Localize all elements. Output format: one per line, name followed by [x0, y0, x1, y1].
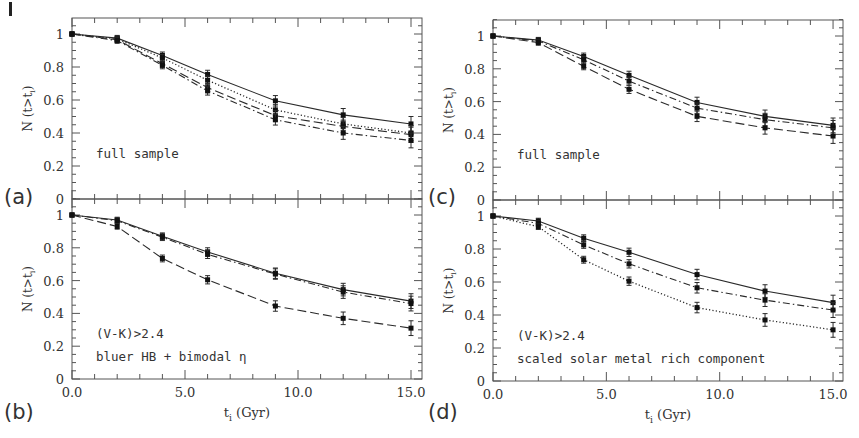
data-point [695, 305, 700, 310]
series-dash-dot [72, 215, 411, 304]
data-point [627, 250, 632, 255]
series-dashed [72, 215, 411, 328]
x-tick-label: 5.0 [596, 387, 617, 402]
series-dashed [493, 36, 833, 136]
y-tick-label: 1 [56, 208, 64, 223]
x-tick-label: 0.0 [483, 387, 504, 402]
y-tick-label: 1 [477, 209, 485, 224]
y-tick-label: 0.8 [464, 242, 485, 257]
data-point [536, 40, 541, 45]
y-tick-label: 0.8 [43, 60, 64, 75]
x-axis-label: ti (Gyr) [224, 405, 270, 423]
data-point [70, 213, 75, 218]
x-tick-label: 0.0 [62, 385, 83, 400]
series-solid [72, 215, 411, 301]
axes-frame [493, 20, 843, 200]
x-tick-label: 10.0 [705, 387, 734, 402]
panel-label-a: (a) [4, 185, 33, 209]
y-tick-label: 0.4 [43, 306, 64, 321]
series-solid [493, 216, 833, 303]
y-tick-label: 0.8 [464, 62, 485, 77]
panel-a: 00.20.40.60.81N (t>ti)full sample [21, 18, 422, 207]
series-dash-dot [493, 36, 833, 128]
data-point [695, 114, 700, 119]
data-point [763, 317, 768, 322]
y-tick-label: 1 [56, 27, 64, 42]
y-tick-label: 0.6 [43, 93, 64, 108]
panel-c: 00.20.40.60.81N (t>ti)full sample [442, 20, 843, 208]
data-point [273, 117, 278, 122]
y-tick-label: 0.2 [43, 339, 64, 354]
x-axis-label: ti (Gyr) [645, 407, 691, 425]
data-point [115, 224, 120, 229]
data-point [695, 272, 700, 277]
data-point [409, 138, 414, 143]
data-point [273, 304, 278, 309]
y-axis-label: N (t>ti) [442, 268, 458, 314]
data-point [491, 214, 496, 219]
data-point [341, 316, 346, 321]
data-point [160, 256, 165, 261]
data-point [115, 38, 120, 43]
data-point [763, 298, 768, 303]
data-point [627, 79, 632, 84]
panel-annotation: bluer HB + bimodal η [96, 349, 247, 364]
data-point [627, 87, 632, 92]
panel-d: 00.20.40.60.810.05.010.015.0ti (Gyr)N (t… [442, 200, 848, 425]
data-point [409, 326, 414, 331]
y-tick-label: 0.6 [43, 274, 64, 289]
panel-annotation: full sample [517, 147, 600, 162]
y-tick-label: 1 [477, 29, 485, 44]
data-point [581, 236, 586, 241]
data-point [205, 252, 210, 257]
data-point [341, 131, 346, 136]
panel-annotation: (V-K)>2.4 [96, 326, 164, 341]
data-point [160, 63, 165, 68]
data-point [409, 301, 414, 306]
panel-annotation: scaled solar metal rich component [517, 351, 765, 366]
x-tick-label: 5.0 [175, 385, 196, 400]
data-point [627, 279, 632, 284]
figure-canvas: 00.20.40.60.81N (t>ti)full sample00.20.4… [0, 0, 859, 438]
data-point [831, 327, 836, 332]
y-tick-label: 0.2 [464, 341, 485, 356]
data-point [831, 134, 836, 139]
data-point [695, 285, 700, 290]
data-point [581, 64, 586, 69]
y-tick-label: 0.4 [43, 126, 64, 141]
data-point [536, 224, 541, 229]
series-dotted [72, 34, 411, 133]
y-tick-label: 0.6 [464, 95, 485, 110]
panel-b: 00.20.40.60.810.05.010.015.0ti (Gyr)N (t… [21, 199, 425, 423]
panel-label-c: (c) [428, 185, 456, 209]
y-tick-label: 0.8 [43, 241, 64, 256]
panel-label-b: (b) [4, 400, 34, 424]
data-point [160, 55, 165, 60]
series-solid [72, 34, 411, 124]
data-point [205, 78, 210, 83]
data-point [160, 235, 165, 240]
y-tick-label: 0 [56, 192, 64, 207]
data-point [273, 272, 278, 277]
panel-label-d: (d) [428, 400, 458, 424]
data-point [70, 32, 75, 37]
y-tick-label: 0 [477, 193, 485, 208]
data-point [627, 261, 632, 266]
x-tick-label: 15.0 [819, 387, 848, 402]
y-tick-label: 0.2 [464, 160, 485, 175]
data-point [341, 112, 346, 117]
data-point [205, 88, 210, 93]
series-solid [493, 36, 833, 125]
panel-annotation: full sample [96, 146, 179, 161]
data-point [581, 57, 586, 62]
panel-annotation: (V-K)>2.4 [517, 328, 585, 343]
y-axis-label: N (t>ti) [442, 87, 458, 133]
data-point [581, 242, 586, 247]
y-axis-label: N (t>ti) [21, 86, 37, 132]
y-tick-label: 0.4 [464, 127, 485, 142]
series-dashed [72, 34, 411, 135]
data-point [273, 98, 278, 103]
data-point [763, 289, 768, 294]
y-tick-label: 0.6 [464, 275, 485, 290]
data-point [763, 125, 768, 130]
